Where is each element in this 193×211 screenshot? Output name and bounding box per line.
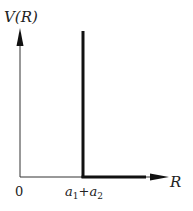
y-axis-label: V(R)	[4, 8, 38, 26]
y-axis-arrow-icon	[17, 28, 24, 46]
x-axis-label: R	[169, 173, 181, 191]
potential-diagram: V(R) R 0 a1+a2	[0, 0, 193, 211]
x-axis-arrow-icon	[150, 174, 169, 181]
origin-label: 0	[15, 184, 23, 199]
wall-position-label: a1+a2	[65, 184, 103, 201]
